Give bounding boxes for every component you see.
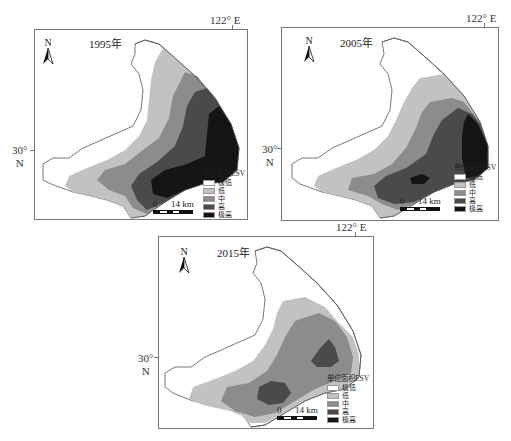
latitude-hemisphere: N <box>12 157 27 170</box>
north-label: N <box>302 36 316 46</box>
scale-start: 0 <box>153 199 158 209</box>
scale-bar: 014 km <box>153 199 197 214</box>
legend-item: 中 <box>454 189 496 197</box>
latitude-label: 30° N <box>262 143 277 169</box>
legend-item: 高 <box>203 203 245 211</box>
legend-title: 单位面积ESV <box>454 164 496 172</box>
legend-label: 极高 <box>342 416 356 424</box>
legend-label: 极低 <box>218 179 232 187</box>
legend-item: 低 <box>327 392 369 400</box>
legend-label: 高 <box>469 197 476 205</box>
legend-label: 极高 <box>469 205 483 213</box>
legend-item: 高 <box>454 197 496 205</box>
legend-item: 极低 <box>203 179 245 187</box>
scale-bar-graphic <box>400 207 440 211</box>
map-frame: 1995年 N 014 km 单位面积ESV 极低 低 中 高 极高 <box>34 29 248 220</box>
legend-item: 中 <box>203 195 245 203</box>
north-arrow-icon <box>42 48 54 64</box>
legend-item: 极低 <box>454 173 496 181</box>
latitude-label: 30° N <box>12 144 27 170</box>
latitude-degree: 30° <box>138 352 153 365</box>
legend-label: 极高 <box>218 211 232 219</box>
latitude-degree: 30° <box>262 143 277 156</box>
north-arrow: N <box>41 38 55 68</box>
legend-item: 中 <box>327 400 369 408</box>
legend: 单位面积ESV 极低 低 中 高 极高 <box>203 170 245 219</box>
scale-bar: 014 km <box>277 405 321 420</box>
scale-end: 14 km <box>171 199 194 209</box>
legend-label: 低 <box>469 181 476 189</box>
legend-label: 高 <box>218 203 225 211</box>
longitude-label: 122° E <box>210 14 240 26</box>
map-frame: 2005年 N 014 km 单位面积ESV 极低 低 中 高 极高 <box>281 27 499 221</box>
scale-start: 0 <box>400 196 405 206</box>
scale-end: 14 km <box>295 405 318 415</box>
legend-item: 低 <box>454 181 496 189</box>
legend-label: 中 <box>469 189 476 197</box>
year-label: 2015年 <box>217 244 250 260</box>
legend-label: 高 <box>342 408 349 416</box>
legend-item: 高 <box>327 408 369 416</box>
legend: 单位面积ESV 极低 低 中 高 极高 <box>327 375 369 424</box>
longitude-label: 122° E <box>466 12 496 24</box>
scale-end: 14 km <box>418 196 441 206</box>
north-label: N <box>177 247 191 257</box>
year-label: 1995年 <box>89 35 122 51</box>
legend-item: 极高 <box>203 211 245 219</box>
legend-item: 低 <box>203 187 245 195</box>
legend-label: 极低 <box>342 384 356 392</box>
scale-bar-graphic <box>277 416 317 420</box>
map-frame: 2015年 N 014 km 单位面积ESV 极低 低 中 高 极高 <box>158 236 374 429</box>
legend-label: 中 <box>342 400 349 408</box>
legend-item: 极高 <box>454 205 496 213</box>
legend-item: 极高 <box>327 416 369 424</box>
legend: 单位面积ESV 极低 低 中 高 极高 <box>454 164 496 213</box>
legend-label: 中 <box>218 195 225 203</box>
legend-title: 单位面积ESV <box>327 375 369 383</box>
scale-bar-graphic <box>153 210 193 214</box>
north-arrow: N <box>302 36 316 66</box>
latitude-label: 30° N <box>138 352 153 378</box>
north-arrow-icon <box>178 257 190 273</box>
scale-start: 0 <box>277 405 282 415</box>
north-label: N <box>41 38 55 48</box>
north-arrow-icon <box>303 46 315 62</box>
latitude-hemisphere: N <box>138 365 153 378</box>
latitude-hemisphere: N <box>262 156 277 169</box>
north-arrow: N <box>177 247 191 277</box>
scale-bar: 014 km <box>400 196 444 211</box>
legend-item: 极低 <box>327 384 369 392</box>
legend-label: 低 <box>342 392 349 400</box>
legend-label: 低 <box>218 187 225 195</box>
latitude-degree: 30° <box>12 144 27 157</box>
legend-label: 极低 <box>469 173 483 181</box>
longitude-label: 122° E <box>336 221 366 233</box>
legend-title: 单位面积ESV <box>203 170 245 178</box>
year-label: 2005年 <box>340 34 373 50</box>
